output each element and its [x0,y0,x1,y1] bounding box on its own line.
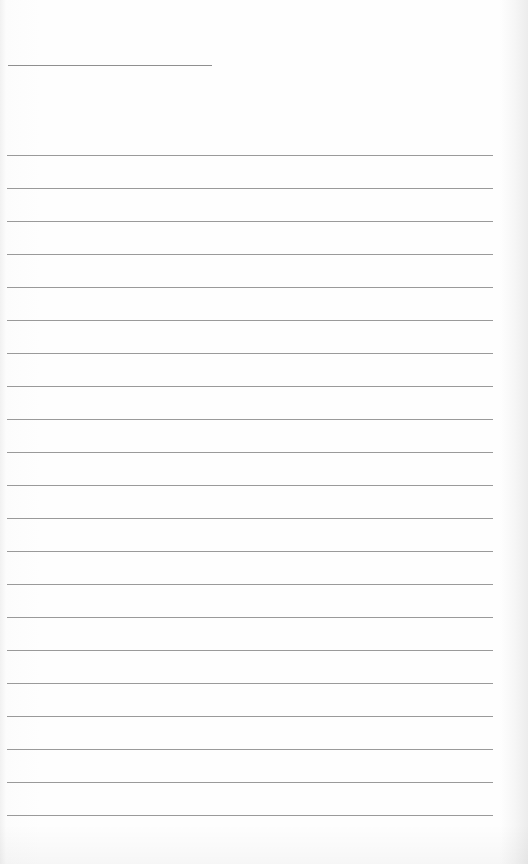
ruled-line [7,749,493,750]
ruled-line [7,716,493,717]
ruled-line [7,485,493,486]
ruled-line [7,155,493,156]
title-line [8,65,212,66]
ruled-line [7,650,493,651]
ruled-line [7,386,493,387]
ruled-line [7,815,493,816]
ruled-line [7,452,493,453]
ruled-line [7,782,493,783]
ruled-line [7,287,493,288]
ruled-line [7,353,493,354]
ruled-line [7,617,493,618]
ruled-line [7,221,493,222]
ruled-line [7,683,493,684]
ruled-line [7,518,493,519]
ruled-line [7,419,493,420]
ruled-line [7,188,493,189]
ruled-line [7,320,493,321]
ruled-line [7,584,493,585]
lined-paper-sheet [0,0,528,864]
ruled-line [7,254,493,255]
ruled-line [7,551,493,552]
paper-shadow [0,824,528,864]
